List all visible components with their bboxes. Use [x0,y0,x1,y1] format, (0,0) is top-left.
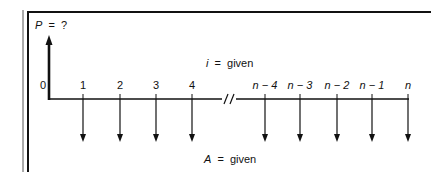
period-label-n-4: n − 4 [253,79,278,91]
down-arrow-icon [117,99,123,142]
annuity-label: A = given [203,153,256,165]
down-arrow-icon [405,99,411,142]
period-label-n: n [405,79,411,91]
down-arrow-icon [189,99,195,142]
axis-break-icon [224,94,234,104]
period-label-1: 1 [80,79,86,91]
period-labels: 0 1 2 3 4 n − 4 n − 3 n − 2 n − 1 n [40,79,411,91]
period-label-n-2: n − 2 [325,79,350,91]
frame-border [23,10,431,172]
period-label-2: 2 [117,79,123,91]
interest-rate-label: i = given [206,57,253,69]
period-label-n-1: n − 1 [360,79,385,91]
period-label-0: 0 [40,79,46,91]
down-arrow-icon [262,99,268,142]
down-arrow-icon [80,99,86,142]
present-value-label: P = ? [35,19,67,31]
down-arrow-icon [297,99,303,142]
down-arrow-icon [153,99,159,142]
present-value-arrow-icon [46,35,53,100]
period-label-4: 4 [189,79,195,91]
down-arrow-icon [334,99,340,142]
down-arrow-icon [369,99,375,142]
annuity-arrows [80,99,411,142]
period-label-n-3: n − 3 [288,79,314,91]
period-label-3: 3 [153,79,159,91]
cash-flow-diagram: P = ? i = given 0 1 2 3 4 n − 4 n − 3 n … [0,0,431,185]
tick-marks [83,94,408,99]
